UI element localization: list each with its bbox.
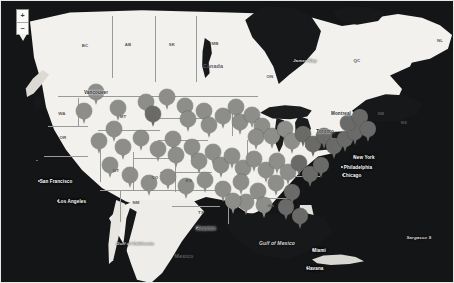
map-pin-tail-icon [183, 190, 189, 199]
map-pin[interactable] [122, 167, 138, 188]
map-pin-tail-icon [310, 148, 316, 157]
map-pin-tail-icon [307, 178, 313, 187]
zoom-out-button[interactable]: − [17, 22, 28, 34]
city-marker-dot [342, 174, 344, 176]
map-pin[interactable] [292, 208, 308, 229]
zoom-in-button[interactable]: + [17, 10, 28, 22]
border-wa-or [48, 126, 88, 127]
map-pin-tail-icon [146, 187, 152, 196]
map-pin-tail-icon [318, 169, 324, 178]
map-pin-tail-icon [206, 129, 212, 138]
map-pin[interactable] [102, 157, 118, 178]
map-pin-tail-icon [365, 133, 371, 142]
city-marker-dot [57, 200, 59, 202]
map-pin[interactable] [76, 103, 92, 124]
map-pin[interactable] [150, 141, 166, 162]
map-pin-tail-icon [243, 206, 249, 215]
city-marker-dot [353, 156, 355, 158]
border-az-nm [120, 190, 121, 222]
city-marker-dot [83, 91, 85, 93]
border-sk-mb [196, 16, 197, 82]
map-pin-tail-icon [93, 96, 99, 105]
map-pin[interactable] [256, 197, 272, 218]
map-pin[interactable] [268, 175, 284, 196]
map-pin[interactable] [360, 121, 376, 142]
map-pin-tail-icon [237, 126, 243, 135]
map-pin-tail-icon [115, 112, 121, 121]
map-pin[interactable] [225, 193, 241, 214]
map-pin-tail-icon [220, 120, 226, 129]
border-or-ca [44, 156, 88, 157]
map-pin-tail-icon [283, 211, 289, 220]
map-pin-tail-icon [155, 153, 161, 162]
map-pin-tail-icon [164, 101, 170, 110]
compass-needle-icon [19, 34, 27, 41]
city-marker-dot [312, 249, 314, 251]
map-pin[interactable] [91, 133, 107, 154]
map-pin-tail-icon [202, 184, 208, 193]
map-pin[interactable] [233, 174, 249, 195]
border-bc-ab [112, 16, 113, 78]
map-pin-tail-icon [107, 169, 113, 178]
map-pin[interactable] [178, 178, 194, 199]
map-pin-tail-icon [165, 181, 171, 190]
city-marker-dot [341, 166, 343, 168]
zoom-control[interactable]: + − [16, 9, 29, 35]
city-marker-dot [38, 180, 40, 182]
map-pin-tail-icon [218, 169, 224, 178]
map-pin-tail-icon [150, 118, 156, 127]
map-pin-tail-icon [352, 136, 358, 145]
border-ut-az [100, 190, 136, 191]
map-pin[interactable] [168, 147, 184, 168]
map-pin[interactable] [248, 129, 264, 150]
map-canvas[interactable]: BCABSKMBONQCNLNBNSWAORMTUTCONMTXKSGACana… [0, 0, 454, 283]
map-pin-tail-icon [120, 151, 126, 160]
city-marker-dot [196, 227, 198, 229]
map-pin[interactable] [110, 100, 126, 121]
map-pin[interactable] [133, 130, 149, 151]
map-pin-tail-icon [269, 140, 275, 149]
map-pin[interactable] [141, 175, 157, 196]
coast-pacific [36, 160, 38, 161]
city-marker-dot [315, 130, 317, 132]
city-marker-dot [306, 267, 308, 269]
map-pin[interactable] [88, 84, 104, 105]
map-pin[interactable] [159, 89, 175, 110]
city-marker-dot [330, 112, 332, 114]
border-ok-tx [172, 206, 220, 207]
map-pin-tail-icon [96, 145, 102, 154]
map-pin-tail-icon [253, 141, 259, 150]
map-pin-tail-icon [138, 142, 144, 151]
map-pin-tail-icon [345, 127, 351, 136]
map-pin[interactable] [160, 169, 176, 190]
map-pin-tail-icon [81, 115, 87, 124]
border-ab-sk [155, 16, 156, 82]
map-pin-tail-icon [127, 179, 133, 188]
map-pin[interactable] [180, 111, 196, 132]
map-pin[interactable] [313, 157, 329, 178]
map-pin-tail-icon [261, 209, 267, 218]
map-pin-tail-icon [273, 187, 279, 196]
map-pin[interactable] [197, 172, 213, 193]
map-pin-tail-icon [297, 220, 303, 229]
map-pin-tail-icon [230, 205, 236, 214]
map-pin-tail-icon [173, 159, 179, 168]
map-pin-tail-icon [251, 163, 257, 172]
map-pin-tail-icon [185, 123, 191, 132]
